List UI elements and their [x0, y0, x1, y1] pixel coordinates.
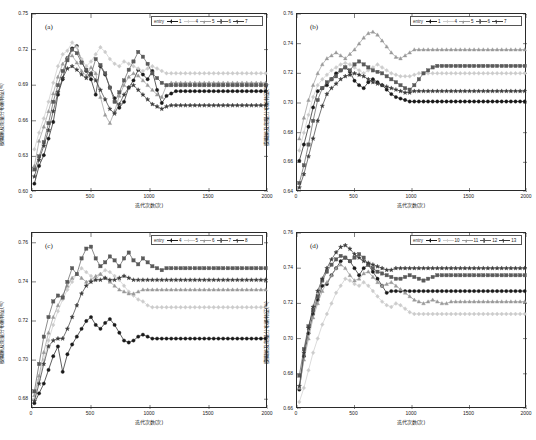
legend-item-9-d[interactable]: 9	[426, 238, 441, 243]
legend-item-12-d[interactable]: 12	[480, 238, 497, 243]
legend-item-13-d[interactable]: 13	[499, 238, 516, 243]
legend-item-11-d[interactable]: 11	[462, 238, 479, 243]
ytick-label-d: 0.70	[271, 335, 293, 341]
plot-svg-d	[297, 233, 527, 409]
ytick-label-d: 0.74	[271, 264, 293, 270]
ytick-label-d: 0.68	[271, 370, 293, 376]
yaxis-title-d: 模糊熵及能量分布熵特征(%)	[262, 301, 269, 364]
legend-d[interactable]: entry910111213	[410, 235, 522, 245]
xtick-label-d: 2000	[511, 410, 536, 416]
legend-item-10-d[interactable]: 10	[443, 238, 460, 243]
legend-swatch-square-icon	[480, 238, 491, 243]
xtick-label-d: 1500	[454, 410, 484, 416]
panel-label-d: (d)	[310, 242, 318, 250]
legend-label-13-d: 13	[511, 238, 516, 243]
plot-area-d	[296, 232, 526, 408]
legend-swatch-diamond-icon	[443, 238, 454, 243]
xtick-label-d: 1000	[396, 410, 426, 416]
series-11-panel-d	[298, 263, 527, 389]
xaxis-title-d: 迭代次数(次)	[296, 418, 526, 425]
legend-label-9-d: 9	[438, 238, 441, 243]
legend-swatch-star-icon	[499, 238, 510, 243]
ytick-label-d: 0.72	[271, 299, 293, 305]
legend-swatch-circle-icon	[426, 238, 437, 243]
legend-label-10-d: 10	[455, 238, 460, 243]
legend-label-12-d: 12	[492, 238, 497, 243]
legend-swatch-triangle-icon	[462, 238, 473, 243]
series-10-panel-d	[298, 277, 527, 404]
xtick-label-d: 0	[281, 410, 311, 416]
xtick-label-d: 500	[339, 410, 369, 416]
ytick-label-d: 0.76	[271, 229, 293, 235]
legend-title-d: entry	[413, 238, 423, 243]
legend-label-11-d: 11	[474, 238, 479, 243]
